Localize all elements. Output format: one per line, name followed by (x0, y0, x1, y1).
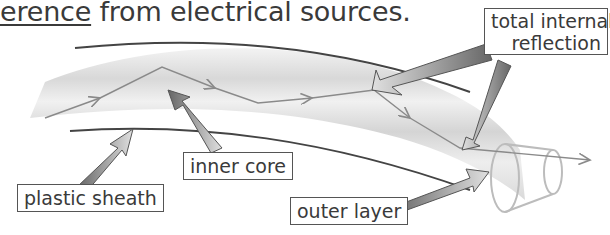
tir-line-2: reflection (491, 32, 601, 54)
label-inner-core: inner core (183, 152, 293, 180)
tir-line-1: total internal (491, 10, 601, 32)
label-outer-layer: outer layer (290, 197, 408, 225)
plastic-sheath-arrow (78, 129, 133, 190)
label-plastic-sheath: plastic sheath (17, 184, 164, 212)
label-total-internal-reflection: total internal reflection (484, 8, 608, 55)
